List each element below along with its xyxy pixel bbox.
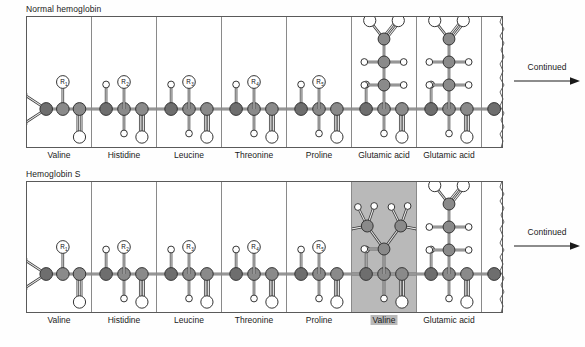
residue-name-label: Glutamic acid [352,150,416,160]
continued-indicator-normal: Continued [508,62,585,91]
molecule-structure: R3 [157,182,221,312]
peptide-chain-sickle: R1ValineR2HistidineR3LeucineR4ThreonineR… [26,181,503,313]
residue-cell: R5Proline [287,182,352,312]
molecule-structure: R1 [27,17,91,147]
residue-cell: R4Threonine [222,182,287,312]
residue-name-label: Proline [287,150,351,160]
molecule-structure: R4 [222,17,286,147]
residue-cell: R1Valine [27,17,92,147]
residue-cell: R5Proline [287,17,352,147]
residue-name-label: Glutamic acid [417,150,481,160]
residue-name-label: Leucine [157,315,221,325]
torn-edge-icon [496,16,508,148]
residue-name-label: Threonine [222,150,286,160]
figure-root: Normal hemoglobin R1ValineR2HistidineR3L… [0,0,585,347]
residue-name-label: Proline [287,315,351,325]
residue-cell: Valine [352,182,417,312]
molecule-structure [417,17,481,147]
molecule-structure: R4 [222,182,286,312]
molecule-structure [352,182,416,312]
molecule-structure: R2 [92,182,156,312]
residue-cell: R2Histidine [92,17,157,147]
molecule-structure [352,17,416,147]
residue-cell: R3Leucine [157,17,222,147]
arrow-right-icon [512,75,582,87]
residue-name-label: Valine [371,315,398,325]
residue-cell: R1Valine [27,182,92,312]
torn-edge-icon [496,181,508,313]
residue-cell: R3Leucine [157,182,222,312]
molecule-structure: R5 [287,17,351,147]
residue-cell: Glutamic acid [352,17,417,147]
residue-name-label: Glutamic acid [417,315,481,325]
residue-cell: R4Threonine [222,17,287,147]
residue-name-label: Threonine [222,315,286,325]
residue-name-label: Histidine [92,315,156,325]
molecule-structure: R5 [287,182,351,312]
arrow-right-icon [512,240,582,252]
residue-name-label: Leucine [157,150,221,160]
residue-name-label: Valine [27,150,91,160]
residue-name-label: Valine [27,315,91,325]
molecule-structure: R1 [27,182,91,312]
residue-cell: R2Histidine [92,182,157,312]
continued-label: Continued [508,227,585,237]
continued-indicator-sickle: Continued [508,227,585,256]
panel-title-normal: Normal hemoglobin [26,4,101,14]
molecule-structure: R2 [92,17,156,147]
residue-cell: Glutamic acid [417,182,482,312]
residue-cell: Glutamic acid [417,17,482,147]
panel-title-sickle: Hemoglobin S [26,169,81,179]
molecule-structure [417,182,481,312]
molecule-structure: R3 [157,17,221,147]
continued-label: Continued [508,62,585,72]
peptide-chain-normal: R1ValineR2HistidineR3LeucineR4ThreonineR… [26,16,503,148]
residue-name-label: Histidine [92,150,156,160]
